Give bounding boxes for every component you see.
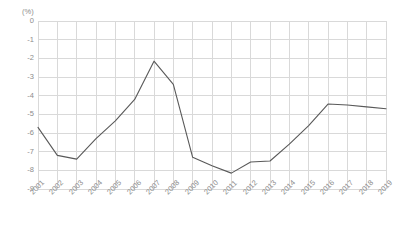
y-axis-unit-label: (%) — [22, 7, 34, 16]
plot-area — [38, 21, 386, 189]
y-axis-tick-label: -1 — [0, 35, 34, 44]
y-axis-tick-label: 0 — [0, 16, 34, 25]
y-axis-tick-label: -8 — [0, 165, 34, 174]
y-axis-tick-label: -3 — [0, 72, 34, 81]
line-chart: (%) 0-1-2-3-4-5-6-7-8-9 2001200220032004… — [0, 0, 397, 228]
y-axis-tick-label: -5 — [0, 109, 34, 118]
series-polyline — [38, 61, 386, 173]
y-axis-tick-label: -2 — [0, 53, 34, 62]
y-axis-tick-label: -6 — [0, 128, 34, 137]
x-axis-tick-labels: 2001200220032004200520062007200820092010… — [38, 190, 386, 228]
data-series-line — [38, 21, 386, 189]
y-axis-tick-label: -4 — [0, 91, 34, 100]
y-axis-tick-labels: 0-1-2-3-4-5-6-7-8-9 — [0, 21, 34, 189]
y-axis-tick-label: -7 — [0, 147, 34, 156]
